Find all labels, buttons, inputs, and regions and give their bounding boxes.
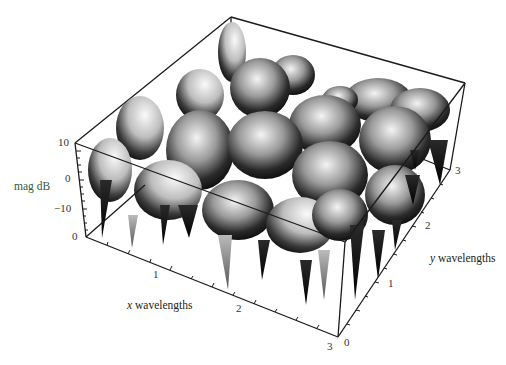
x-axis-title: x wavelengths	[127, 299, 192, 311]
x-tick-2: 2	[236, 302, 242, 314]
y-axis-title: y wavelengths	[430, 252, 495, 264]
y-axis-title-rest: wavelengths	[435, 252, 495, 264]
surface-plot-svg	[0, 0, 506, 365]
x-axis-title-rest: wavelengths	[132, 299, 192, 311]
z-axis-title: mag dB	[14, 180, 50, 192]
z-tick-neg10: −10	[54, 202, 71, 214]
y-tick-1: 1	[388, 277, 394, 289]
x-tick-1: 1	[153, 268, 159, 280]
z-tick-10: 10	[58, 136, 69, 148]
surface-plot-figure: mag dB 10 0 −10 0 1 2 3 x wavelengths 0 …	[0, 0, 506, 365]
x-tick-3: 3	[327, 340, 333, 352]
x-tick-0: 0	[72, 230, 78, 242]
y-tick-2: 2	[425, 219, 431, 231]
surface-mesh	[88, 22, 450, 305]
z-tick-0: 0	[65, 172, 71, 184]
x-axis-ticks	[107, 242, 319, 328]
y-tick-0: 0	[344, 336, 350, 348]
y-tick-3: 3	[455, 164, 461, 176]
